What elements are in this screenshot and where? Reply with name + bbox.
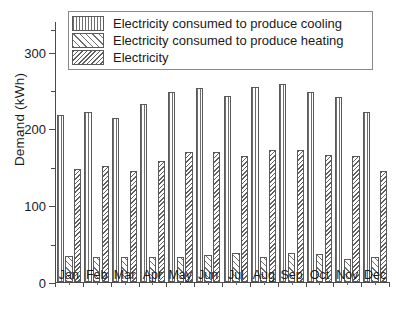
y-tick-300	[49, 53, 56, 54]
x-minor-tick	[319, 282, 320, 285]
x-tick	[306, 282, 307, 287]
bar	[269, 150, 276, 282]
bar	[57, 115, 64, 282]
x-axis-label-aug: Aug	[253, 268, 275, 282]
bar	[297, 150, 304, 282]
legend: Electricity consumed to produce coolingE…	[68, 11, 373, 70]
x-axis-label-feb: Feb	[86, 268, 108, 282]
x-tick	[250, 282, 251, 287]
bar	[352, 156, 359, 282]
x-tick	[55, 282, 56, 287]
x-minor-tick	[264, 282, 265, 285]
legend-swatch-dense-crosshatch	[72, 50, 104, 65]
bar	[325, 155, 332, 282]
x-minor-tick	[208, 282, 209, 285]
y-tick-label-300: 300	[24, 45, 46, 60]
x-minor-tick	[180, 282, 181, 285]
bar	[168, 92, 175, 282]
y-tick-200	[49, 129, 56, 130]
y-tick-label-0: 0	[39, 276, 46, 291]
x-tick	[166, 282, 167, 287]
bar	[140, 104, 147, 282]
x-minor-tick	[69, 282, 70, 285]
bar	[279, 84, 286, 282]
bar	[213, 152, 220, 283]
x-axis-label-mar: Mar	[114, 268, 136, 282]
bar-chart: Demand (kWh) 0100200300 JanFebMarAprMayJ…	[0, 0, 396, 318]
legend-swatch-diagonal-hatch	[72, 33, 104, 48]
x-minor-tick	[152, 282, 153, 285]
bar	[112, 118, 119, 282]
bar	[185, 152, 192, 283]
x-axis-label-sep: Sep	[280, 268, 302, 282]
x-tick	[333, 282, 334, 287]
x-axis-label-may: May	[168, 268, 192, 282]
y-minor-tick-330	[51, 30, 56, 31]
x-minor-tick	[375, 282, 376, 285]
legend-item: Electricity	[72, 49, 368, 66]
legend-item: Electricity consumed to produce heating	[72, 32, 368, 49]
y-minor-tick-150	[51, 168, 56, 169]
x-minor-tick	[292, 282, 293, 285]
legend-label: Electricity	[113, 50, 169, 65]
x-axis-label-apr: Apr	[143, 268, 162, 282]
x-tick	[361, 282, 362, 287]
bar	[335, 97, 342, 282]
x-axis-label-jan: Jan	[59, 268, 79, 282]
bar	[224, 96, 231, 282]
bar	[84, 112, 91, 282]
bar	[102, 166, 109, 282]
x-axis-label-jul: Jul	[228, 268, 244, 282]
legend-swatch-vertical-lines	[72, 16, 104, 31]
x-minor-tick	[97, 282, 98, 285]
bar	[74, 169, 81, 282]
legend-item: Electricity consumed to produce cooling	[72, 15, 368, 32]
bar	[251, 87, 258, 282]
x-minor-tick	[236, 282, 237, 285]
y-minor-tick-50	[51, 245, 56, 246]
x-minor-tick	[125, 282, 126, 285]
y-axis-title: Demand (kWh)	[12, 45, 27, 195]
x-axis-label-oct: Oct	[310, 268, 329, 282]
x-tick	[278, 282, 279, 287]
x-minor-tick	[347, 282, 348, 285]
bar	[307, 92, 314, 282]
x-tick	[139, 282, 140, 287]
y-tick-label-100: 100	[24, 199, 46, 214]
x-tick	[222, 282, 223, 287]
bar	[363, 112, 370, 282]
legend-label: Electricity consumed to produce heating	[113, 33, 344, 48]
bar	[130, 171, 137, 282]
bar	[158, 161, 165, 282]
x-axis-label-nov: Nov	[336, 268, 358, 282]
bar	[241, 156, 248, 282]
x-tick	[111, 282, 112, 287]
x-tick	[83, 282, 84, 287]
bar	[380, 171, 387, 282]
bar	[196, 88, 203, 282]
x-axis-label-dec: Dec	[364, 268, 386, 282]
y-tick-label-200: 200	[24, 122, 46, 137]
x-axis-label-jun: Jun	[198, 268, 218, 282]
x-tick	[194, 282, 195, 287]
legend-label: Electricity consumed to produce cooling	[113, 16, 342, 31]
x-tick	[389, 282, 390, 287]
y-tick-100	[49, 206, 56, 207]
y-minor-tick-250	[51, 91, 56, 92]
